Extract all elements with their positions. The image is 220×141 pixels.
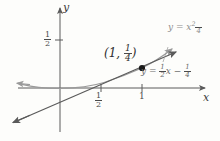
- parabola-equation-label: y = x2 4: [168, 20, 202, 36]
- x-tick-label-half: 1 2: [95, 92, 102, 110]
- figure-canvas: y x 1 2 1 2 1 (1, 1 4 ) y = x2 4 y = 1 2: [0, 0, 220, 141]
- tangent-label-prefix: y =: [141, 66, 159, 76]
- point-label-close: ): [132, 46, 137, 60]
- point-label-denominator: 4: [124, 54, 132, 63]
- y-tick-half-denominator: 2: [44, 40, 51, 48]
- point-label-open: (1,: [104, 46, 124, 60]
- x-tick-half-denominator: 2: [95, 101, 102, 109]
- x-axis-label: x: [203, 92, 209, 103]
- parabola-label-denominator: 4: [195, 28, 201, 35]
- y-tick-label-half: 1 2: [44, 31, 51, 49]
- tangency-point-label: (1, 1 4 ): [104, 44, 136, 64]
- tangent-line-left-arrowhead: [13, 115, 30, 122]
- parabola-label-text: y = x: [168, 22, 191, 32]
- tangent-line: [18, 52, 176, 121]
- tangent-label-minus: −: [171, 66, 184, 76]
- tangent-equation-label: y = 1 2 x − 1 4: [141, 64, 191, 80]
- y-axis-label: y: [63, 2, 69, 13]
- x-tick-label-one: 1: [139, 92, 145, 101]
- tangent-label-intercept-denominator: 4: [184, 72, 190, 79]
